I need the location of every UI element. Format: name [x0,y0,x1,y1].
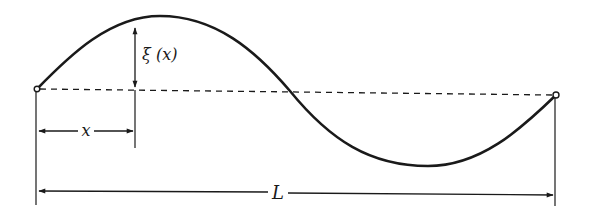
length-arrow-left [39,191,268,192]
string-curve [37,16,556,166]
length-label: L [271,182,284,203]
string-displacement-diagram: ξ (x) x L [0,0,591,216]
position-label: x [81,121,90,140]
equilibrium-dashed-line [40,89,553,95]
length-arrow-right [288,193,553,195]
left-fixed-endpoint [34,86,40,92]
right-fixed-endpoint [553,92,559,98]
displacement-label: ξ (x) [142,45,177,64]
